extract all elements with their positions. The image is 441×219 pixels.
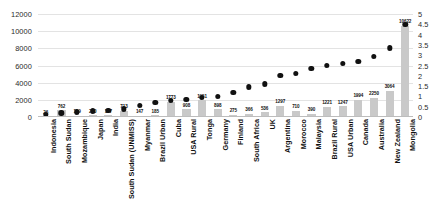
bar-value-label: 185: [152, 109, 159, 114]
plot-area: 2676211921018771314718517739081951898275…: [38, 14, 413, 117]
x-axis-label: Brazil Rural: [330, 119, 339, 160]
bar-value-label: 536: [261, 106, 268, 111]
y-axis-right-tick: 0.5: [418, 102, 429, 111]
bar-value-label: 187: [105, 109, 112, 114]
bar-value-label: 1221: [322, 100, 332, 105]
bar-value-label: 713: [120, 104, 127, 109]
x-axis-label: Australia: [377, 119, 386, 150]
x-axis-label: Brazil Urban: [158, 119, 167, 162]
bar-value-label: 119: [74, 109, 81, 114]
y-axis-left-tick: 10000: [11, 27, 32, 36]
x-axis-label: Indonesia: [49, 119, 58, 153]
bar-value-label: 898: [214, 103, 221, 108]
x-axis-label: Cuba: [174, 119, 183, 137]
y-axis-left-tick: 12000: [11, 10, 32, 19]
bar-value-label: 1994: [353, 93, 363, 98]
x-axis-label: New Zealand: [393, 119, 402, 164]
bar-value-label: 2250: [369, 91, 379, 96]
x-axis-label: UK: [268, 119, 277, 129]
x-axis-label: USA Rural: [189, 119, 198, 155]
bar-value-label: 26: [43, 110, 48, 115]
y-axis-right-tick: 0: [418, 113, 422, 122]
bar-value-label: 210: [89, 109, 96, 114]
bar-value-label: 1247: [338, 100, 348, 105]
x-axis-label: Tonga: [205, 119, 214, 140]
y-axis-right-tick: 2.5: [418, 61, 429, 70]
bar-value-label: 366: [245, 107, 252, 112]
x-axis-label: Mozambique: [80, 119, 89, 163]
y-axis-right-tick: 1: [418, 92, 422, 101]
y-axis-right-tick: 3: [418, 51, 422, 60]
bar-value-label: 762: [58, 104, 65, 109]
bar-value-labels: 2676211921018771314718517739081951898275…: [38, 14, 413, 117]
bar-value-label: 275: [230, 108, 237, 113]
x-axis-label: South Africa: [252, 119, 261, 162]
bar-value-label: 1297: [275, 99, 285, 104]
x-axis-label: Morocco: [299, 119, 308, 149]
y-axis-left-tick: 0: [28, 113, 32, 122]
x-axis-label: USA Urban: [346, 119, 355, 157]
y-axis-left-tick: 6000: [15, 61, 32, 70]
y-axis-left-tick: 4000: [15, 78, 32, 87]
x-axis-label: Japan: [96, 119, 105, 140]
x-axis-label: India: [111, 119, 120, 136]
bar-value-label: 1773: [166, 95, 176, 100]
x-axis-label: Canada: [361, 119, 370, 145]
y-axis-right-tick: 1.5: [418, 82, 429, 91]
x-axis-label: Myanmar: [143, 119, 152, 151]
combo-chart: 020004000600080001000012000 267621192101…: [0, 0, 441, 219]
x-axis-label: South Sudan (UNMISS): [127, 119, 136, 199]
x-axis-label: Finland: [236, 119, 245, 145]
x-axis-label: Argentina: [283, 119, 292, 153]
y-axis-left: 020004000600080001000012000: [0, 14, 36, 117]
x-axis-labels: IndonesiaSouth SudanMozambiqueJapanIndia…: [38, 117, 413, 217]
bar-value-label: 147: [136, 109, 143, 114]
x-axis-label: Mongolia: [408, 119, 417, 151]
y-axis-right: 00.511.522.533.544.55: [415, 14, 441, 117]
bar-value-label: 3064: [385, 84, 395, 89]
x-axis-label: Germany: [221, 119, 230, 151]
bar-value-label: 908: [183, 103, 190, 108]
y-axis-left-tick: 2000: [15, 95, 32, 104]
y-axis-right-tick: 3.5: [418, 40, 429, 49]
y-axis-right-tick: 4.5: [418, 20, 429, 29]
y-axis-right-tick: 5: [418, 10, 422, 19]
bar-value-label: 1951: [197, 94, 207, 99]
x-axis-label: Malaysia: [314, 119, 323, 149]
bar-value-label: 710: [292, 104, 299, 109]
x-axis-label: South Sudan: [64, 119, 73, 164]
bar-value-label: 10622: [399, 19, 411, 24]
y-axis-right-tick: 2: [418, 71, 422, 80]
y-axis-right-tick: 4: [418, 30, 422, 39]
y-axis-left-tick: 8000: [15, 44, 32, 53]
bar-value-label: 390: [308, 107, 315, 112]
